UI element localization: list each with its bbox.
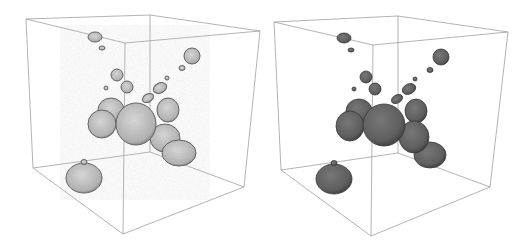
bounding-box-render — [266, 0, 532, 249]
isosurface-blobs — [316, 33, 449, 194]
bounding-box-render — [0, 0, 266, 249]
isosurface-panel-left — [0, 0, 266, 249]
isosurface-panel-right — [266, 0, 532, 249]
stipple-texture — [60, 25, 210, 200]
